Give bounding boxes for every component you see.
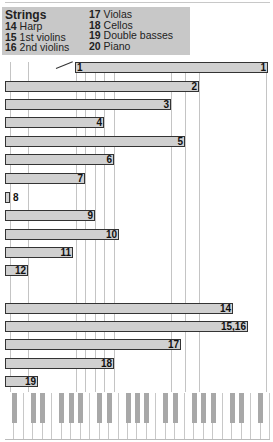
bar-label: 15,16	[221, 321, 246, 332]
black-key	[230, 393, 235, 423]
range-bar: 7	[5, 173, 85, 184]
range-bar: 18	[5, 358, 114, 369]
range-bar: 15,16	[5, 321, 248, 332]
range-bar: 11	[75, 62, 268, 73]
range-bar: 5	[5, 136, 185, 147]
black-key	[59, 393, 64, 423]
black-key	[173, 393, 178, 423]
black-key	[12, 393, 17, 423]
range-bar: 14	[5, 303, 233, 314]
bar-label: 2	[191, 81, 197, 92]
black-key	[69, 393, 74, 423]
black-key	[40, 393, 45, 423]
bar-label: 19	[25, 376, 36, 387]
range-bar: 19	[5, 376, 38, 387]
bar-label: 8	[13, 192, 19, 203]
gridline	[266, 62, 267, 392]
range-bar	[5, 192, 10, 203]
piano-keyboard	[5, 393, 270, 440]
bar-start-label: 1	[77, 62, 83, 73]
range-bar: 2	[5, 81, 199, 92]
bar-label: 18	[101, 358, 112, 369]
black-key	[97, 393, 102, 423]
black-key	[107, 393, 112, 423]
legend-box: Strings 14 Harp 15 1st violins 16 2nd vi…	[2, 7, 190, 55]
legend-item: 16 2nd violins	[5, 42, 69, 53]
black-key	[211, 393, 216, 423]
range-bar: 3	[5, 99, 171, 110]
black-key	[31, 393, 36, 423]
pointer-line	[56, 61, 73, 69]
legend-item: 19 Double basses	[89, 30, 173, 41]
legend-column-2: 17 Violas 18 Cellos 19 Double basses 20 …	[89, 9, 173, 51]
legend-column-1: Strings 14 Harp 15 1st violins 16 2nd vi…	[5, 9, 69, 53]
bar-label: 9	[87, 210, 93, 221]
black-key	[144, 393, 149, 423]
range-bar: 11	[5, 247, 73, 258]
bar-label: 5	[177, 136, 183, 147]
legend-num: 16	[5, 41, 17, 53]
black-key	[201, 393, 206, 423]
range-bar: 12	[5, 265, 28, 276]
gridline	[185, 62, 186, 392]
bar-label: 11	[60, 247, 71, 258]
black-key	[78, 393, 83, 423]
bar-label: 1	[260, 62, 266, 73]
black-key	[135, 393, 140, 423]
range-bar: 17	[5, 339, 181, 350]
legend-num: 20	[89, 40, 101, 52]
top-rule	[5, 2, 270, 3]
black-key	[258, 393, 263, 423]
bar-label: 6	[106, 154, 112, 165]
bar-label: 17	[168, 339, 179, 350]
black-key	[163, 393, 168, 423]
bar-label: 12	[15, 265, 26, 276]
bar-label: 4	[96, 117, 102, 128]
bar-label: 10	[106, 229, 117, 240]
range-bar: 9	[5, 210, 95, 221]
black-key	[192, 393, 197, 423]
legend-label: Piano	[104, 40, 131, 52]
bar-label: 3	[163, 99, 169, 110]
legend-label: 2nd violins	[20, 41, 70, 53]
range-bar: 4	[5, 117, 104, 128]
legend-item: 20 Piano	[89, 41, 173, 52]
gridline	[199, 62, 200, 392]
range-bar: 10	[5, 229, 119, 240]
black-key	[239, 393, 244, 423]
bar-label: 7	[77, 173, 83, 184]
bar-label: 14	[220, 303, 231, 314]
range-bar: 6	[5, 154, 114, 165]
black-key	[126, 393, 131, 423]
